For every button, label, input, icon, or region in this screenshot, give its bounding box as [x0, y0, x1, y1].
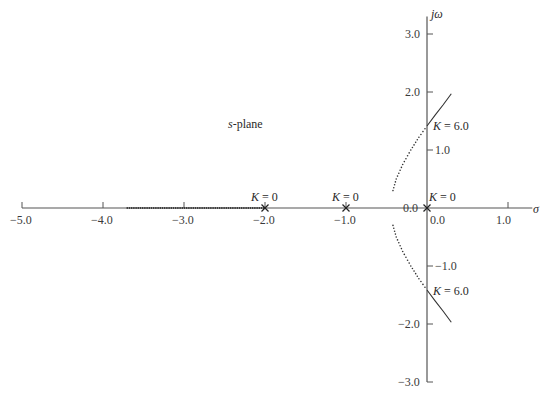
- locus-point: [405, 158, 407, 160]
- locus-point: [407, 259, 409, 261]
- locus-point: [397, 239, 399, 241]
- locus-point: [201, 207, 203, 209]
- x-axis-label: σ: [533, 202, 540, 216]
- locus-point: [392, 225, 394, 227]
- locus-point: [192, 207, 194, 209]
- locus-point: [410, 265, 412, 267]
- x-tick-label: −1.0: [334, 213, 356, 227]
- locus-point: [399, 245, 401, 247]
- locus-point: [420, 281, 422, 283]
- locus-point: [133, 207, 135, 209]
- x-tick-label: −2.0: [253, 213, 275, 227]
- locus-point: [170, 207, 172, 209]
- y-tick-label: 3.0: [405, 27, 420, 41]
- locus-point: [245, 207, 247, 209]
- locus-point: [243, 207, 245, 209]
- locus-point: [408, 152, 410, 154]
- locus-point: [393, 228, 395, 230]
- locus-point: [210, 207, 212, 209]
- x-tick-label: −3.0: [172, 213, 194, 227]
- locus-point: [197, 207, 199, 209]
- locus-point: [413, 270, 415, 272]
- s-plane-label: s-plane: [228, 117, 263, 131]
- locus-point: [186, 207, 188, 209]
- locus-point: [203, 207, 205, 209]
- y-axis-label: jω: [429, 7, 443, 21]
- locus-point: [157, 207, 159, 209]
- locus-point: [252, 207, 254, 209]
- locus-point: [250, 207, 252, 209]
- y-tick-label: −2.0: [398, 317, 420, 331]
- crossing-gain-label: K = 6.0: [432, 119, 469, 133]
- locus-point: [155, 207, 157, 209]
- locus-point: [395, 178, 397, 180]
- locus-point: [412, 147, 414, 149]
- pole-gain-label: K = 0: [428, 190, 456, 204]
- locus-point: [394, 184, 396, 186]
- locus-point: [144, 207, 146, 209]
- root-locus-plot: −5.0−4.0−3.0−2.0−1.00.01.03.02.01.00.0−1…: [0, 0, 552, 401]
- locus-point: [221, 207, 223, 209]
- x-tick-label: 1.0: [496, 213, 511, 227]
- locus-point: [401, 248, 403, 250]
- locus-point: [393, 187, 395, 189]
- locus-point: [135, 207, 137, 209]
- y-tick-label: 2.0: [405, 85, 420, 99]
- locus-point: [177, 207, 179, 209]
- locus-point: [397, 175, 399, 177]
- locus-point: [142, 207, 144, 209]
- locus-point: [151, 207, 153, 209]
- locus-point: [258, 207, 260, 209]
- locus-point: [153, 207, 155, 209]
- locus-point: [416, 139, 418, 141]
- locus-point: [420, 134, 422, 136]
- locus-point: [173, 207, 175, 209]
- locus-point: [223, 207, 225, 209]
- x-tick-label: −5.0: [10, 213, 32, 227]
- crossing-gain-label: K = 6.0: [432, 284, 469, 298]
- locus-point: [424, 286, 426, 288]
- locus-point: [416, 275, 418, 277]
- locus-point: [230, 207, 232, 209]
- locus-point: [256, 207, 258, 209]
- locus-point: [208, 207, 210, 209]
- locus-point: [395, 181, 397, 183]
- x-tick-label: −4.0: [91, 213, 113, 227]
- locus-point: [236, 207, 238, 209]
- locus-point: [241, 207, 243, 209]
- locus-point: [413, 144, 415, 146]
- locus-point: [164, 207, 166, 209]
- locus-point: [188, 207, 190, 209]
- locus-point: [199, 207, 201, 209]
- locus-point: [228, 207, 230, 209]
- locus-point: [394, 230, 396, 232]
- locus-point: [412, 268, 414, 270]
- locus-point: [395, 236, 397, 238]
- locus-point: [398, 242, 400, 244]
- locus-point: [415, 142, 417, 144]
- locus-point: [247, 207, 249, 209]
- locus-point: [398, 172, 400, 174]
- locus-point: [418, 278, 420, 280]
- locus-point: [195, 207, 197, 209]
- locus-point: [401, 167, 403, 169]
- locus-point: [232, 207, 234, 209]
- locus-point: [179, 207, 181, 209]
- locus-point: [190, 207, 192, 209]
- locus-point: [214, 207, 216, 209]
- locus-point: [395, 233, 397, 235]
- locus-point: [217, 207, 219, 209]
- locus-point: [168, 207, 170, 209]
- locus-point: [206, 207, 208, 209]
- locus-point: [424, 128, 426, 130]
- locus-point: [137, 207, 139, 209]
- y-tick-label: 0.0: [403, 201, 418, 215]
- locus-point: [126, 207, 128, 209]
- pole-gain-label: K = 0: [331, 190, 359, 204]
- locus-point: [166, 207, 168, 209]
- locus-point: [239, 207, 241, 209]
- y-tick-label: −3.0: [398, 375, 420, 389]
- locus-point: [129, 207, 131, 209]
- locus-point: [402, 251, 404, 253]
- y-tick-label: −1.0: [435, 259, 457, 273]
